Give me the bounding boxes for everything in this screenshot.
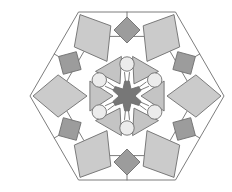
small-circle: [148, 73, 162, 87]
small-circle: [120, 121, 134, 135]
small-circle: [148, 105, 162, 119]
small-circle: [120, 57, 134, 71]
pattern-canvas: [0, 0, 232, 192]
small-circle: [92, 73, 106, 87]
hexagon-pattern-figure: [0, 0, 232, 192]
small-circle: [92, 105, 106, 119]
